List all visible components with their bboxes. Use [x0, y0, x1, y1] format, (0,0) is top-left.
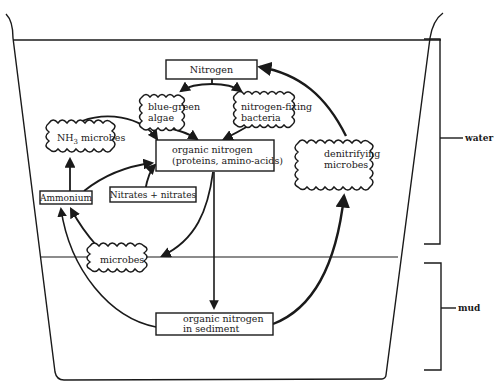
edge-microbes-to-ammonium: [71, 209, 97, 246]
node-organic-nitrogen: organic nitrogen (proteins, amino-acids): [156, 140, 283, 171]
node-nitrogen-fixing-bacteria: nitrogen-fixing bacteria: [234, 92, 313, 128]
algae-label-line2: algae: [148, 112, 174, 123]
edge-nitrogen-to-bacteria: [212, 84, 241, 91]
algae-label-line1: blue-green: [148, 101, 200, 112]
node-ammonium: Ammonium: [39, 191, 92, 204]
water-bracket: water: [424, 39, 493, 244]
denitrifying-label-line1: denitrifying: [324, 148, 380, 159]
ammonium-label: Ammonium: [39, 193, 92, 203]
node-nh3-microbes: NH3 microbes: [46, 120, 125, 152]
denitrifying-label-line2: microbes: [324, 159, 368, 170]
water-label: water: [464, 133, 493, 143]
node-blue-green-algae: blue-green algae: [140, 95, 201, 131]
node-nitrogen: Nitrogen: [166, 60, 257, 79]
edge-nitrogen-to-algae: [181, 84, 212, 91]
node-organic-nitrogen-sediment: organic nitrogen in sediment: [156, 313, 273, 335]
edge-bacteria-to-organic: [224, 126, 248, 139]
microbes-label: microbes: [100, 254, 144, 265]
nitrates-label: Nitrates + nitrates: [110, 190, 197, 200]
node-microbes: microbes: [87, 243, 147, 272]
sediment-label-line2: in sediment: [183, 323, 240, 334]
node-nitrates: Nitrates + nitrates: [110, 187, 197, 202]
bacteria-label-line1: nitrogen-fixing: [241, 101, 312, 112]
organic-nitrogen-label-line2: (proteins, amino-acids): [172, 155, 283, 166]
organic-nitrogen-label-line1: organic nitrogen: [172, 144, 253, 155]
nitrogen-label: Nitrogen: [190, 64, 233, 75]
edge-sediment-to-denitrifying: [273, 196, 344, 324]
node-denitrifying-microbes: denitrifying microbes: [295, 140, 380, 190]
edge-organic-to-microbes: [162, 172, 213, 256]
nitrogen-cycle-diagram: water mud N: [0, 0, 494, 389]
mud-bracket: mud: [424, 263, 481, 370]
bacteria-label-line2: bacteria: [241, 112, 281, 123]
mud-label: mud: [458, 303, 481, 313]
